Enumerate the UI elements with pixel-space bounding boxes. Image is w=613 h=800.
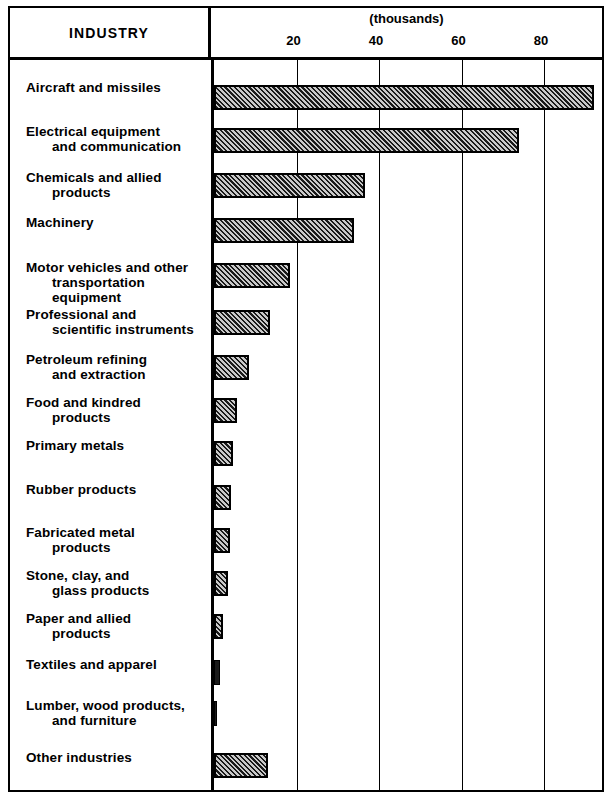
bar	[214, 753, 268, 778]
bar	[214, 355, 249, 380]
industry-header-cell: INDUSTRY	[10, 8, 211, 57]
category-label-line2: products	[26, 540, 205, 555]
category-label-line1: Petroleum refining	[26, 352, 147, 367]
gridline	[462, 60, 463, 790]
category-label: Paper and alliedproducts	[26, 611, 205, 641]
bar	[214, 528, 230, 553]
category-label: Stone, clay, andglass products	[26, 568, 205, 598]
bar	[214, 660, 220, 685]
category-label-line2: and furniture	[26, 713, 205, 728]
category-label-line1: Aircraft and missiles	[26, 80, 161, 95]
category-label: Primary metals	[26, 438, 205, 453]
chart-frame: INDUSTRY (thousands) 20406080 Aircraft a…	[8, 6, 604, 792]
category-label-line2: products	[26, 626, 205, 641]
category-label-line2: and communication	[26, 139, 205, 154]
axis-tick-label: 60	[451, 33, 465, 48]
category-label-line1: Chemicals and allied	[26, 170, 162, 185]
category-label: Aircraft and missiles	[26, 80, 205, 95]
bar	[214, 173, 365, 198]
category-label-line2: scientific instruments	[26, 322, 205, 337]
category-label-line1: Professional and	[26, 307, 136, 322]
bar	[214, 218, 354, 243]
category-label-line2: products	[26, 410, 205, 425]
bar	[214, 441, 233, 466]
category-label-line1: Food and kindred	[26, 395, 141, 410]
chart-body: Aircraft and missilesElectrical equipmen…	[10, 60, 602, 790]
category-label-line1: Paper and allied	[26, 611, 131, 626]
bar	[214, 701, 217, 726]
category-label-line1: Textiles and apparel	[26, 657, 157, 672]
category-label: Professional andscientific instruments	[26, 307, 205, 337]
category-label-line1: Fabricated metal	[26, 525, 135, 540]
category-label-line2: products	[26, 185, 205, 200]
industry-header-label: INDUSTRY	[69, 25, 149, 41]
bar	[214, 485, 231, 510]
category-label-line2: transportation equipment	[26, 275, 205, 305]
category-label: Food and kindredproducts	[26, 395, 205, 425]
category-label-line2: glass products	[26, 583, 205, 598]
gridline	[379, 60, 380, 790]
category-label: Chemicals and alliedproducts	[26, 170, 205, 200]
category-label-line1: Stone, clay, and	[26, 568, 129, 583]
bar	[214, 398, 237, 423]
category-label: Other industries	[26, 750, 205, 765]
units-label: (thousands)	[211, 11, 602, 26]
axis-tick-label: 20	[286, 33, 300, 48]
chart-header: INDUSTRY (thousands) 20406080	[10, 8, 602, 60]
category-label-line1: Lumber, wood products,	[26, 698, 185, 713]
category-label-line1: Motor vehicles and other	[26, 260, 188, 275]
category-label-line2: and extraction	[26, 367, 205, 382]
category-label: Lumber, wood products,and furniture	[26, 698, 205, 728]
category-label-line1: Primary metals	[26, 438, 124, 453]
bar	[214, 614, 223, 639]
category-label: Machinery	[26, 215, 205, 230]
category-label: Petroleum refiningand extraction	[26, 352, 205, 382]
category-label-line1: Machinery	[26, 215, 94, 230]
category-label: Electrical equipmentand communication	[26, 124, 205, 154]
gridline	[297, 60, 298, 790]
bar	[214, 263, 290, 288]
gridline	[544, 60, 545, 790]
category-label: Fabricated metalproducts	[26, 525, 205, 555]
bar	[214, 571, 228, 596]
bar	[214, 128, 519, 153]
category-label-column: Aircraft and missilesElectrical equipmen…	[10, 60, 211, 790]
category-label-line1: Electrical equipment	[26, 124, 160, 139]
category-label: Rubber products	[26, 482, 205, 497]
category-label-line1: Rubber products	[26, 482, 136, 497]
axis-tick-label: 40	[369, 33, 383, 48]
axis-tick-label: 80	[534, 33, 548, 48]
scale-header-cell: (thousands) 20406080	[211, 8, 602, 57]
category-label-line1: Other industries	[26, 750, 132, 765]
plot-area	[211, 60, 602, 790]
bar	[214, 85, 594, 110]
category-label: Textiles and apparel	[26, 657, 205, 672]
category-label: Motor vehicles and othertransportation e…	[26, 260, 205, 305]
bar	[214, 310, 270, 335]
